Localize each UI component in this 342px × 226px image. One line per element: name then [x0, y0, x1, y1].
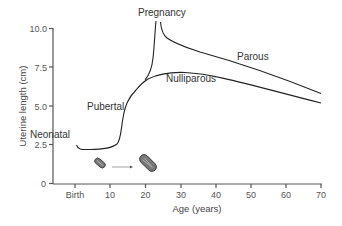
label-pregnancy: Pregnancy — [138, 7, 186, 18]
x-tick-label: Birth — [66, 190, 85, 200]
label-nulliparous: Nulliparous — [166, 73, 216, 84]
uterus-small-icon — [93, 157, 106, 169]
x-tick-label: 40 — [211, 190, 221, 200]
uterus-large-icon — [138, 153, 159, 174]
y-ticks: 0 2.5 5.0 7.5 10.0 — [29, 24, 53, 189]
y-tick-label: 2.5 — [34, 140, 47, 150]
x-ticks: Birth 10 20 30 40 50 60 70 — [66, 184, 326, 200]
y-axis-title: Uterine length (cm) — [17, 66, 28, 147]
x-tick-label: 60 — [281, 190, 291, 200]
uterine-length-chart: 0 2.5 5.0 7.5 10.0 Birth 10 20 30 40 50 … — [0, 0, 342, 226]
y-tick-label: 10.0 — [29, 24, 47, 34]
x-tick-label: 30 — [176, 190, 186, 200]
label-pubertal: Pubertal — [87, 101, 124, 112]
x-tick-label: 50 — [246, 190, 256, 200]
x-axis-title: Age (years) — [172, 203, 221, 214]
x-tick-label: 20 — [140, 190, 150, 200]
arrow-right-icon — [112, 166, 133, 169]
y-tick-label: 7.5 — [34, 63, 47, 73]
y-tick-label: 5.0 — [34, 102, 47, 112]
x-tick-label: 10 — [105, 190, 115, 200]
x-tick-label: 70 — [316, 190, 326, 200]
y-tick-label: 0 — [41, 179, 46, 189]
parous-curve-rise — [145, 21, 156, 80]
label-neonatal: Neonatal — [30, 129, 70, 140]
label-parous: Parous — [237, 51, 269, 62]
